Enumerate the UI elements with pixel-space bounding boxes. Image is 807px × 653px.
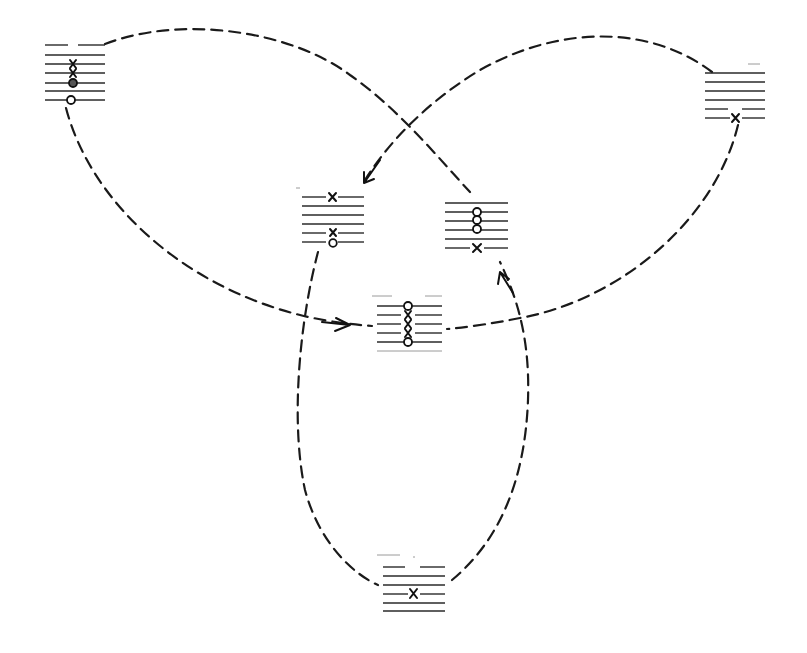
- o-marker: [473, 216, 481, 224]
- o-marker: [473, 225, 481, 233]
- o-marker: [404, 338, 412, 346]
- state-box-c: [296, 188, 364, 247]
- x-marker: [405, 329, 411, 337]
- state-box-d: [445, 203, 508, 252]
- arrowhead-into-c: [364, 160, 380, 183]
- o-marker-filled: [69, 79, 77, 87]
- o-marker: [473, 208, 481, 216]
- o-marker: [404, 302, 412, 310]
- curve-a-to-e: [66, 108, 372, 326]
- state-box-f: [377, 555, 445, 611]
- x-marker: [405, 311, 411, 319]
- state-box-b: [705, 64, 765, 122]
- o-marker: [67, 96, 75, 104]
- curve-b-to-e: [447, 125, 738, 329]
- state-box-a: [45, 45, 105, 104]
- curve-f-to-d: [452, 262, 528, 580]
- x-marker: [329, 193, 336, 201]
- curve-a-to-d: [105, 29, 470, 192]
- o-marker: [329, 239, 337, 247]
- x-marker: [405, 320, 411, 328]
- x-marker: [732, 114, 739, 122]
- x-marker: [473, 244, 481, 252]
- state-box-e: [372, 296, 442, 351]
- curve-c-to-f: [298, 252, 378, 585]
- state-diagram: [0, 0, 807, 653]
- arrowhead-into-d: [498, 272, 513, 293]
- x-marker: [330, 229, 336, 236]
- curve-b-to-c: [365, 36, 712, 180]
- x-marker: [410, 589, 417, 598]
